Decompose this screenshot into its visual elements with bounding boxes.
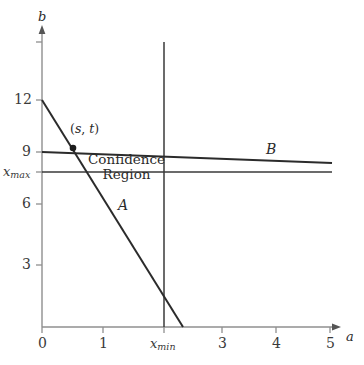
- point-s-t-marker: [70, 145, 77, 152]
- x-axis-group: [42, 324, 341, 333]
- y-tick-label-xmax-sub: max: [10, 169, 30, 180]
- point-label-comma: ,: [81, 121, 85, 136]
- x-axis-arrowhead: [332, 324, 341, 331]
- y-axis-name: b: [38, 10, 46, 23]
- x-tick-label-xmin: xmin: [150, 337, 176, 351]
- point-s-t-label: (s, t): [70, 123, 99, 136]
- x-tick-label-5: 5: [326, 336, 335, 350]
- x-tick-label-xmin-sub: min: [157, 341, 175, 352]
- y-tick-label-9: 9: [22, 144, 31, 158]
- x-tick-label-0: 0: [38, 336, 47, 350]
- confidence-region-label: Confidence Region: [88, 152, 165, 182]
- confidence-region-label-line1: Confidence: [88, 152, 165, 167]
- y-axis-arrowhead: [39, 25, 46, 34]
- y-tick-label-12: 12: [14, 92, 32, 106]
- line-a: [42, 100, 183, 327]
- line-b: [42, 152, 332, 163]
- line-a-label: A: [118, 198, 128, 212]
- confidence-region-figure: b a 12 9 xmax 6 3 0 1 xmin 3 4 5 (s, t) …: [0, 0, 364, 365]
- x-tick-label-4: 4: [272, 336, 281, 350]
- confidence-region-label-line2: Region: [88, 167, 165, 182]
- y-axis-group: [36, 25, 45, 327]
- point-label-close-paren: ): [94, 121, 99, 136]
- x-tick-label-3: 3: [218, 336, 227, 350]
- y-tick-label-xmax: xmax: [3, 165, 30, 179]
- plot-canvas: [0, 0, 364, 365]
- x-axis-name: a: [346, 330, 354, 343]
- x-tick-label-1: 1: [99, 336, 108, 350]
- y-tick-label-6: 6: [22, 196, 31, 210]
- y-tick-label-3: 3: [22, 257, 31, 271]
- line-b-label: B: [266, 142, 276, 156]
